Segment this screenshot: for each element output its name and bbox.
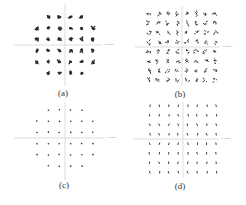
symbol-point [197,105,198,107]
symbol-point [149,143,150,145]
symbol-point [168,171,169,173]
symbol-point [197,124,198,126]
symbol-point [149,124,150,126]
symbol-point [149,171,150,173]
symbol-point [159,124,160,126]
symbol-point [149,162,150,164]
symbol-point [187,171,188,173]
symbol-point [178,171,179,173]
symbol-point [159,162,160,164]
symbol-point [178,124,179,126]
symbol-point [168,143,169,145]
symbol-point [178,162,179,164]
symbol-point [159,143,160,145]
panel-caption-d: (d) [175,181,186,191]
symbol-point [206,133,207,135]
symbol-point [168,124,169,126]
symbol-point [197,152,198,154]
symbol-point [188,143,189,145]
constellation-plot-d [0,0,246,205]
symbol-point [178,114,179,116]
symbol-point [178,105,179,107]
symbol-point [159,133,160,135]
x-axis-label: In-Phase [221,137,231,140]
